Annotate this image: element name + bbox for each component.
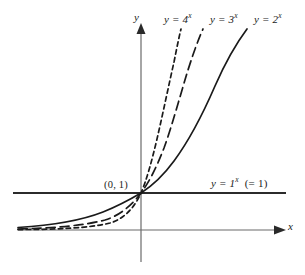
curve-label-y3-text: y = 3 xyxy=(210,13,234,25)
curve-label-y3: y = 3x xyxy=(210,14,238,25)
curve-label-y4-exponent: x xyxy=(188,11,192,20)
plot-canvas xyxy=(0,0,305,275)
y-axis-arrow-icon xyxy=(137,23,146,34)
curve-label-y3-exponent: x xyxy=(234,11,238,20)
curve-label-y1: y = 1x (= 1) xyxy=(211,178,268,189)
intercept-label: (0, 1) xyxy=(104,180,128,191)
curve-y-equals-2-to-the-x xyxy=(18,29,247,228)
x-axis-arrow-icon xyxy=(274,226,286,235)
exponential-functions-figure: y = 4x y = 3x y = 2x y = 1x (= 1) (0, 1)… xyxy=(0,0,305,275)
curve-label-y2: y = 2x xyxy=(254,14,282,25)
curve-label-y2-text: y = 2 xyxy=(254,13,278,25)
curve-label-y1-suffix: (= 1) xyxy=(245,177,268,189)
curve-label-y2-exponent: x xyxy=(278,11,282,20)
x-axis-label: x xyxy=(288,221,293,232)
curve-label-y1-text: y = 1 xyxy=(211,177,235,189)
y-axis-label: y xyxy=(134,12,139,23)
curve-y-equals-4-to-the-x xyxy=(18,29,181,230)
curve-label-y4: y = 4x xyxy=(164,14,192,25)
curve-label-y4-text: y = 4 xyxy=(164,13,188,25)
